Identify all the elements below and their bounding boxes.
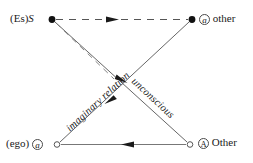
top-edge-arrowhead bbox=[106, 16, 119, 22]
schema-l-diagram: imaginary relation unconscious (Es)S a o… bbox=[0, 0, 253, 163]
bottom-edge-arrowhead bbox=[121, 141, 134, 147]
circled-A-symbol: A bbox=[198, 138, 209, 149]
node-label-a-other: a other bbox=[199, 12, 235, 25]
es-prefix-text: (Es) bbox=[10, 12, 28, 24]
node-label-ego-a: (ego) a bbox=[6, 137, 43, 150]
circled-a-ego-symbol: a bbox=[32, 139, 43, 150]
node-label-a-capital-other: A Other bbox=[198, 136, 237, 149]
imaginary-relation-label: imaginary relation bbox=[64, 70, 132, 134]
top-dashed-edge bbox=[56, 16, 188, 22]
node-marker-es-s bbox=[49, 16, 56, 23]
ego-prefix-text: (ego) bbox=[6, 137, 29, 149]
s-symbol-text: S bbox=[28, 12, 34, 24]
bottom-solid-edge bbox=[61, 141, 186, 147]
es-s-dashed-diagonal bbox=[56, 23, 114, 79]
capital-other-text: Other bbox=[212, 136, 237, 148]
node-marker-A-Other bbox=[187, 142, 193, 148]
unconscious-label: unconscious bbox=[130, 75, 177, 120]
node-label-es-s: (Es)S bbox=[10, 12, 34, 24]
es-s-dashed-line bbox=[56, 23, 114, 79]
node-marker-a-other bbox=[189, 16, 196, 23]
other-text: other bbox=[213, 12, 236, 24]
circled-a-symbol: a bbox=[199, 14, 210, 25]
node-marker-ego-a bbox=[54, 142, 60, 148]
